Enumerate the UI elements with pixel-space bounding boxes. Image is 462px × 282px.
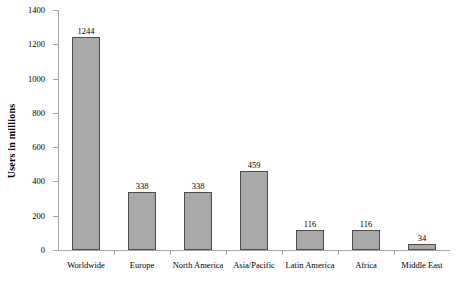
bar: 1244 — [72, 37, 100, 250]
x-axis-category-label: Asia/Pacific — [233, 260, 275, 270]
y-axis-tick: 1400 — [53, 10, 58, 11]
x-axis-category-label: North America — [173, 260, 224, 270]
bar-value-label: 338 — [136, 181, 149, 191]
y-axis-tick: 800 — [53, 113, 58, 114]
y-axis-tick: 1000 — [53, 79, 58, 80]
y-axis-line — [58, 10, 59, 250]
bar: 116 — [296, 230, 324, 250]
y-axis-tick-label: 800 — [32, 108, 45, 118]
bar-value-label: 1244 — [78, 26, 95, 36]
y-axis-tick-label: 600 — [32, 142, 45, 152]
bar-value-label: 116 — [304, 219, 316, 229]
y-axis-tick: 0 — [53, 250, 58, 251]
bar: 34 — [408, 244, 436, 250]
y-axis-tick: 200 — [53, 216, 58, 217]
x-axis-category-label: Africa — [355, 260, 377, 270]
x-axis-tick — [338, 250, 339, 255]
bar-value-label: 34 — [418, 233, 427, 243]
bar: 338 — [184, 192, 212, 250]
y-axis-tick: 600 — [53, 147, 58, 148]
plot-area: 0200400600800100012001400 12443383384591… — [58, 10, 450, 250]
y-axis-tick-label: 200 — [32, 211, 45, 221]
x-axis-line — [58, 250, 450, 251]
x-axis-tick — [170, 250, 171, 255]
x-axis-tick — [394, 250, 395, 255]
y-axis-tick-label: 400 — [32, 176, 45, 186]
y-axis-title: Users in millions — [0, 0, 22, 282]
y-axis-tick: 400 — [53, 181, 58, 182]
x-axis-tick — [282, 250, 283, 255]
y-axis-tick: 1200 — [53, 44, 58, 45]
bar-value-label: 459 — [248, 160, 261, 170]
y-axis-tick-label: 0 — [41, 245, 45, 255]
bar-value-label: 116 — [360, 219, 372, 229]
x-axis-category-label: Latin America — [286, 260, 335, 270]
bar: 459 — [240, 171, 268, 250]
y-axis-tick-label: 1200 — [28, 39, 45, 49]
bar: 116 — [352, 230, 380, 250]
x-axis-tick — [114, 250, 115, 255]
x-axis-category-label: Worldwide — [67, 260, 105, 270]
x-axis-category-label: Europe — [130, 260, 155, 270]
bar: 338 — [128, 192, 156, 250]
y-axis-tick-label: 1000 — [28, 74, 45, 84]
bar-value-label: 338 — [192, 181, 205, 191]
x-axis-tick — [226, 250, 227, 255]
y-axis-tick-label: 1400 — [28, 5, 45, 15]
x-axis-category-label: Middle East — [401, 260, 442, 270]
bar-chart: Users in millions 0200400600800100012001… — [0, 0, 462, 282]
